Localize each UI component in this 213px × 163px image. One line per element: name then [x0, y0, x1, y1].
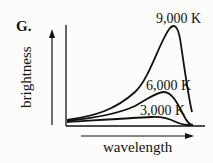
y-axis-label: brightness — [19, 46, 34, 108]
label-9000k: 9,000 K — [156, 12, 201, 26]
x-axis-label: wavelength — [103, 140, 172, 155]
y-arrow-head-icon — [49, 29, 55, 38]
x-arrow-head-icon — [185, 133, 194, 139]
blackbody-figure: G. 9,000 K 6,000 K 3,000 K brightness wa… — [0, 0, 213, 163]
label-3000k: 3,000 K — [140, 104, 185, 118]
label-6000k: 6,000 K — [146, 79, 191, 93]
figure-label: G. — [16, 19, 31, 34]
